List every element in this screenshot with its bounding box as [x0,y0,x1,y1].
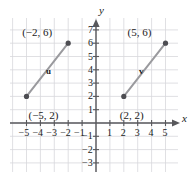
x-axis-tick-label: 5 [163,128,168,138]
point-label-u-start: (−5, 2) [29,110,59,121]
x-axis-tick-label: 3 [135,128,140,138]
vector-diagram: −5−4−3−2−1123457654321−1−2−3xy(−5, 2)(−2… [0,0,191,185]
y-axis-tick-label: −3 [82,158,93,168]
y-axis-tick-label: −2 [82,145,93,155]
x-axis-tick-label: −3 [46,128,57,138]
y-axis-tick-label: 1 [88,105,93,115]
vector-end-point-u [66,41,71,46]
x-axis-tick-label: −2 [60,128,71,138]
y-axis-name: y [99,5,104,16]
y-axis-tick-label: 4 [88,65,93,75]
y-axis-tick-label: 2 [88,91,93,101]
vector-name-u: u [46,67,51,76]
vector-start-point-u [24,94,29,99]
x-axis-tick-label: 1 [107,128,112,138]
vector-end-point-v [163,41,168,46]
x-axis-tick-label: 4 [149,128,154,138]
y-axis-tick-label: 3 [88,78,93,88]
y-axis-tick-label: 6 [88,38,93,48]
point-label-v-end: (5, 6) [128,27,152,38]
y-axis-tick-label: 5 [88,52,93,62]
point-label-v-start: (2, 2) [120,110,144,121]
x-axis-tick-label: 2 [121,128,126,138]
y-axis-arrow [92,19,99,27]
vector-name-v: v [139,67,144,76]
vector-start-point-v [121,94,126,99]
y-axis-tick-label: 7 [88,25,93,35]
x-axis-arrow [172,119,180,126]
point-label-u-end: (−2, 6) [22,27,52,38]
y-axis-tick-label: −1 [82,131,93,141]
x-axis-tick-label: −5 [19,128,30,138]
x-axis-tick-label: −4 [32,128,43,138]
x-axis-name: x [182,113,187,124]
